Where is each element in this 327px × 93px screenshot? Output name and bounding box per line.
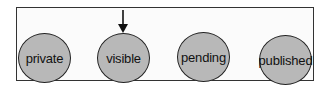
initial-state-arrow-icon [116, 10, 130, 34]
state-label: pending [181, 50, 226, 65]
state-label: private [26, 51, 64, 66]
state-published: published [259, 35, 312, 85]
state-visible: visible [97, 33, 150, 83]
state-label: visible [106, 51, 141, 66]
state-pending: pending [177, 32, 230, 82]
state-private: private [18, 33, 71, 83]
state-label: published [259, 53, 313, 68]
